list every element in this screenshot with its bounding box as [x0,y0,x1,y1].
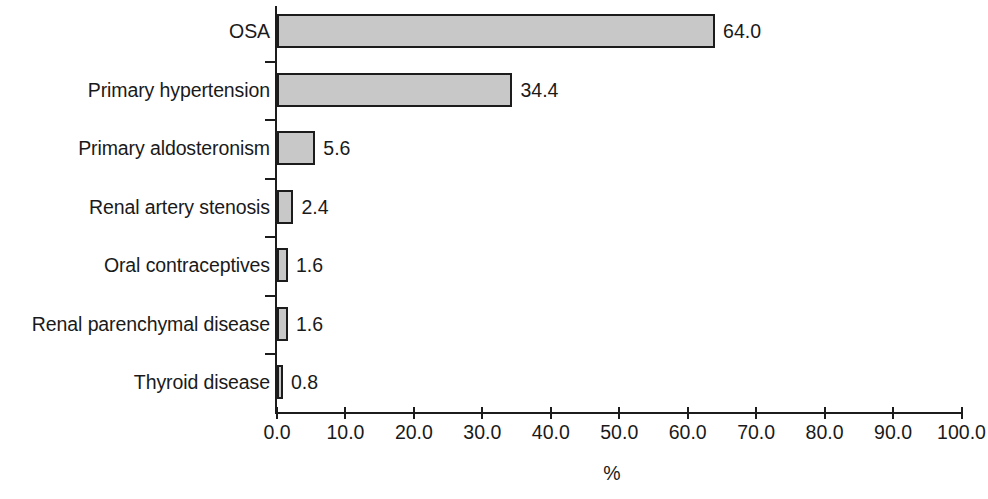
x-axis-tick-label: 30.0 [463,421,501,444]
x-axis-tick-label: 0.0 [263,421,290,444]
bar-row: Renal parenchymal disease1.6 [0,295,988,353]
bar-row: Thyroid disease0.8 [0,353,988,411]
bar-value-label: 64.0 [723,20,761,43]
x-axis-tick-label: 80.0 [806,421,844,444]
x-axis-tick-label: 90.0 [874,421,912,444]
category-label: Renal parenchymal disease [32,312,270,335]
x-axis-tick [824,407,826,419]
x-axis-tick-label: 100.0 [937,421,986,444]
bar-row: Primary aldosteronism5.6 [0,119,988,177]
bar [277,131,315,165]
bar-value-label: 2.4 [301,195,328,218]
x-axis-tick-label: 60.0 [669,421,707,444]
x-axis-tick-label: 70.0 [737,421,775,444]
bar-chart: OSA64.0Primary hypertension34.4Primary a… [0,0,988,499]
bar [277,14,715,48]
x-axis-tick-label: 20.0 [395,421,433,444]
bar-value-label: 34.4 [520,78,558,101]
x-axis-tick [550,407,552,419]
category-label: Primary hypertension [88,78,270,101]
x-axis-tick-label: 10.0 [326,421,364,444]
bar-value-label: 1.6 [296,312,323,335]
x-axis-tick [892,407,894,419]
bar-row: OSA64.0 [0,2,988,60]
bar [277,73,512,107]
category-label: Renal artery stenosis [89,195,270,218]
x-axis-tick [344,407,346,419]
bar [277,307,288,341]
bar [277,248,288,282]
bar [277,365,283,399]
x-axis-tick [961,407,963,419]
x-axis-title: % [603,462,620,485]
category-label: Primary aldosteronism [78,137,270,160]
category-label: OSA [229,20,270,43]
x-axis-tick [618,407,620,419]
x-axis-tick [687,407,689,419]
bar-row: Renal artery stenosis2.4 [0,178,988,236]
bar-value-label: 5.6 [323,137,350,160]
x-axis-tick-label: 50.0 [600,421,638,444]
bar-value-label: 0.8 [291,371,318,394]
x-axis-tick [413,407,415,419]
bar-row: Primary hypertension34.4 [0,61,988,119]
x-axis-tick [276,407,278,419]
x-axis-tick [481,407,483,419]
category-label: Oral contraceptives [104,254,270,277]
bar-row: Oral contraceptives1.6 [0,236,988,294]
bar [277,190,293,224]
category-label: Thyroid disease [134,371,270,394]
x-axis-tick [755,407,757,419]
x-axis-tick-label: 40.0 [532,421,570,444]
bar-value-label: 1.6 [296,254,323,277]
